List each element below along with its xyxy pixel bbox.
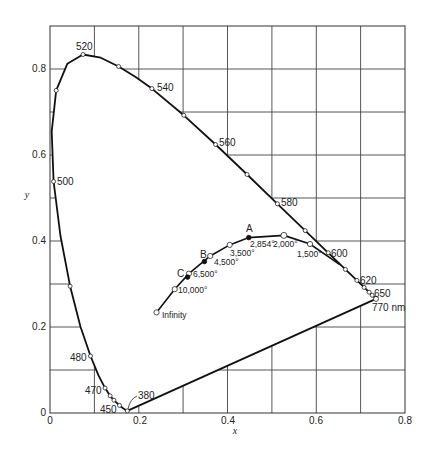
temp-label-2854: 2,854° [250,239,275,249]
temp-label-3500: 3,500° [230,248,255,258]
wl-label-600: 600 [331,248,348,259]
x-tick-0: 0 [47,415,53,426]
wl-label-520: 520 [76,41,93,52]
wl-label-770: 770 nm [372,302,405,313]
temp-label-4500: 4,500° [214,257,239,267]
x-tick-0.8: 0.8 [398,415,412,426]
x-axis: 0 0.2 0.4 0.6 0.8 x [47,415,412,436]
wl-label-500: 500 [57,176,74,187]
y-tick-0.2: 0.2 [32,321,46,332]
temp-label-6500: 6,500° [193,269,218,279]
illuminant-b-label: B [200,249,207,260]
y-tick-0.8: 0.8 [32,63,46,74]
wl-label-560: 560 [219,137,236,148]
wl-label-380: 380 [138,390,155,401]
x-tick-0.6: 0.6 [309,415,323,426]
wl-label-620: 620 [360,275,377,286]
temp-label-10000: 10,000° [178,285,207,295]
y-tick-0: 0 [40,407,46,418]
y-tick-0.6: 0.6 [32,149,46,160]
temp-label-infinity: Infinity [162,310,187,320]
wl-label-580: 580 [281,197,298,208]
wl-label-470: 470 [85,385,102,396]
temp-label-2000: 2,000° [273,239,298,249]
y-axis-title: y [24,189,30,200]
y-tick-0.4: 0.4 [32,235,46,246]
illuminant-a-label: A [246,223,253,234]
locus-interior-mask [52,55,376,411]
x-axis-title: x [232,425,238,436]
wl-label-540: 540 [157,82,174,93]
x-tick-0.2: 0.2 [133,415,147,426]
wl-label-480: 480 [70,352,87,363]
y-axis: 0 0.2 0.4 0.6 0.8 y [24,63,47,418]
temp-label-1500: 1,500° [297,249,322,259]
illuminant-c-label: C [177,268,184,279]
wl-label-450: 450 [100,404,117,415]
illuminant-c-marker [185,275,190,280]
cie-chromaticity-chart: 520 540 560 580 600 620 650 770 nm 500 4… [0,0,430,453]
wl-label-650: 650 [374,288,391,299]
